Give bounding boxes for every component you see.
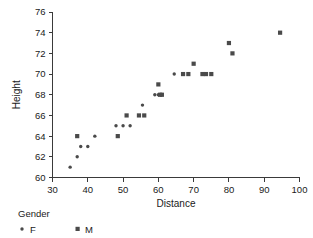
data-point-m bbox=[160, 93, 164, 97]
data-points bbox=[68, 31, 282, 169]
data-point-m bbox=[186, 72, 190, 76]
y-tick-label: 72 bbox=[35, 48, 46, 59]
y-tick-label: 74 bbox=[35, 27, 46, 38]
legend-label-f: F bbox=[30, 224, 36, 235]
data-point-f bbox=[114, 124, 117, 127]
data-point-f bbox=[68, 165, 71, 168]
data-point-m bbox=[181, 72, 185, 76]
data-point-m bbox=[75, 134, 79, 138]
data-point-m bbox=[209, 72, 213, 76]
y-tick-label: 60 bbox=[35, 172, 46, 183]
y-axis: 606264666870727476 bbox=[35, 6, 53, 183]
data-point-f bbox=[128, 124, 131, 127]
y-tick-label: 66 bbox=[35, 110, 46, 121]
data-point-m bbox=[192, 62, 196, 66]
x-tick-label: 60 bbox=[153, 184, 164, 195]
data-point-f bbox=[93, 134, 96, 137]
legend-title: Gender bbox=[18, 208, 50, 219]
data-point-m bbox=[204, 72, 208, 76]
data-point-f bbox=[76, 155, 79, 158]
data-point-f bbox=[173, 72, 176, 75]
data-point-f bbox=[79, 145, 82, 148]
data-point-m bbox=[142, 113, 146, 117]
x-tick-label: 50 bbox=[118, 184, 129, 195]
x-tick-label: 100 bbox=[292, 184, 308, 195]
y-axis-title: Height bbox=[11, 80, 22, 109]
series-m bbox=[75, 31, 282, 139]
y-tick-label: 70 bbox=[35, 68, 46, 79]
x-axis: 30405060708090100 bbox=[47, 178, 307, 195]
legend-label-m: M bbox=[85, 224, 93, 235]
x-tick-label: 70 bbox=[188, 184, 199, 195]
x-tick-label: 90 bbox=[259, 184, 270, 195]
x-tick-label: 30 bbox=[47, 184, 58, 195]
y-tick-label: 68 bbox=[35, 89, 46, 100]
y-tick-label: 62 bbox=[35, 151, 46, 162]
x-tick-label: 40 bbox=[82, 184, 93, 195]
data-point-m bbox=[227, 41, 231, 45]
series-f bbox=[68, 72, 175, 168]
legend-marker-m bbox=[76, 227, 80, 231]
data-point-m bbox=[230, 51, 234, 55]
legend-marker-f bbox=[20, 227, 23, 230]
data-point-m bbox=[125, 113, 129, 117]
data-point-m bbox=[278, 31, 282, 35]
data-point-m bbox=[156, 82, 160, 86]
data-point-f bbox=[86, 145, 89, 148]
data-point-m bbox=[116, 134, 120, 138]
y-tick-label: 76 bbox=[35, 6, 46, 17]
y-tick-label: 64 bbox=[35, 131, 46, 142]
x-axis-title: Distance bbox=[157, 198, 196, 209]
data-point-f bbox=[141, 103, 144, 106]
plot-canvas: 60626466687072747630405060708090100Dista… bbox=[0, 0, 313, 238]
x-tick-label: 80 bbox=[224, 184, 235, 195]
legend: GenderFM bbox=[18, 208, 93, 235]
data-point-f bbox=[153, 93, 156, 96]
scatter-plot-figure: 60626466687072747630405060708090100Dista… bbox=[0, 0, 313, 238]
data-point-f bbox=[121, 124, 124, 127]
data-point-m bbox=[137, 113, 141, 117]
